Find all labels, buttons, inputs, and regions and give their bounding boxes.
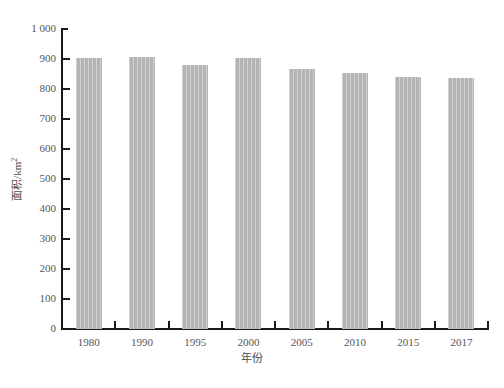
x-axis-title: 年份: [0, 352, 504, 365]
y-axis-title: 面积/km2: [9, 119, 24, 239]
x-axis-tick-label: 2015: [378, 336, 438, 348]
y-axis-tick-label: 900: [10, 53, 56, 64]
bar: [342, 73, 368, 329]
x-axis-tick-label: 2000: [218, 336, 278, 348]
x-axis-tick-label: 2010: [325, 336, 385, 348]
x-axis-tick-label: 1980: [59, 336, 119, 348]
bar-chart-figure: 01002003004005006007008009001 000 198019…: [0, 0, 504, 388]
y-axis-tick-label: 100: [10, 293, 56, 304]
bar: [395, 77, 421, 329]
x-axis-tick-label: 1995: [165, 336, 225, 348]
x-axis-tick-label: 2005: [272, 336, 332, 348]
y-axis-tick-label: 800: [10, 83, 56, 94]
y-axis-title-exponent: 2: [10, 158, 19, 162]
y-axis-title-text: 面积/km: [11, 162, 23, 201]
bar: [182, 65, 208, 329]
bar: [448, 78, 474, 329]
plot-area: [62, 29, 488, 329]
x-axis-tick-label: 1990: [112, 336, 172, 348]
bar: [235, 58, 261, 329]
x-axis-tick-label: 2017: [431, 336, 491, 348]
y-axis-tick-label: 0: [10, 323, 56, 334]
bar: [129, 57, 155, 329]
y-axis-tick-label: 1 000: [10, 23, 56, 34]
bar: [76, 58, 102, 330]
y-axis-tick-label: 200: [10, 263, 56, 274]
bar: [289, 69, 315, 329]
